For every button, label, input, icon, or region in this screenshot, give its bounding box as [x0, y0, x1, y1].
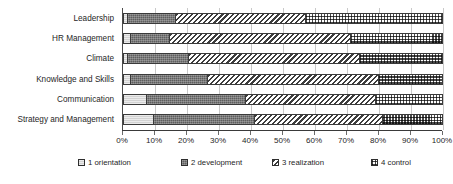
bar-segment-series-4[interactable] [359, 54, 442, 63]
x-axis-tick [314, 131, 315, 135]
bar-row [123, 114, 443, 125]
bars-container [123, 8, 443, 130]
chart-legend: 1 orientation2 development3 realization4… [0, 158, 453, 180]
bar-segment-series-2[interactable] [130, 75, 206, 84]
bar-segment-series-4[interactable] [350, 34, 442, 43]
legend-swatch-icon [272, 159, 279, 166]
stacked-bar[interactable] [123, 94, 443, 105]
bar-segment-series-3[interactable] [245, 95, 375, 104]
category-label: Climate [86, 54, 114, 63]
bar-segment-series-3[interactable] [175, 14, 305, 23]
bar-row [123, 53, 443, 64]
category-axis: LeadershipHR ManagementClimateKnowledge … [0, 8, 118, 130]
legend-label: 4 control [381, 158, 411, 167]
legend-item[interactable]: 4 control [371, 158, 411, 167]
legend-swatch-icon [78, 159, 85, 166]
bar-row [123, 74, 443, 85]
bar-segment-series-2[interactable] [153, 115, 255, 124]
legend-label: 3 realization [282, 158, 324, 167]
x-axis-tick-label: 30% [210, 136, 226, 145]
legend-item[interactable]: 3 realization [272, 158, 324, 167]
x-axis-tick-label: 40% [242, 136, 258, 145]
stacked-bar[interactable] [123, 114, 443, 125]
bar-row [123, 13, 443, 24]
bar-segment-series-1[interactable] [124, 115, 153, 124]
x-axis-tick [154, 131, 155, 135]
x-axis-tick-label: 70% [338, 136, 354, 145]
x-axis-tick [250, 131, 251, 135]
bar-segment-series-3[interactable] [188, 54, 360, 63]
x-axis-tick [410, 131, 411, 135]
x-axis-tick [218, 131, 219, 135]
bar-segment-series-2[interactable] [127, 54, 187, 63]
bar-segment-series-4[interactable] [375, 95, 442, 104]
stacked-bar-chart: LeadershipHR ManagementClimateKnowledge … [0, 0, 453, 184]
category-label: Knowledge and Skills [36, 75, 114, 84]
x-axis-tick-label: 20% [178, 136, 194, 145]
bar-segment-series-4[interactable] [378, 75, 442, 84]
legend-label: 2 development [191, 158, 242, 167]
stacked-bar[interactable] [123, 53, 443, 64]
x-axis-tick [378, 131, 379, 135]
category-label: Strategy and Management [18, 115, 115, 124]
stacked-bar[interactable] [123, 13, 443, 24]
bar-row [123, 33, 443, 44]
bar-segment-series-2[interactable] [146, 95, 245, 104]
bar-segment-series-3[interactable] [207, 75, 379, 84]
bar-segment-series-4[interactable] [382, 115, 442, 124]
x-axis-tick-label: 100% [432, 136, 452, 145]
x-axis-tick [442, 131, 443, 135]
bar-segment-series-4[interactable] [305, 14, 442, 23]
legend-swatch-icon [181, 159, 188, 166]
stacked-bar[interactable] [123, 74, 443, 85]
value-axis: 0%10%20%30%40%50%60%70%80%90%100% [122, 130, 442, 151]
bar-segment-series-2[interactable] [127, 14, 175, 23]
gridline [443, 8, 444, 130]
bar-row [123, 94, 443, 105]
plot-wrapper: LeadershipHR ManagementClimateKnowledge … [0, 0, 453, 150]
x-axis-tick-label: 80% [370, 136, 386, 145]
x-axis-tick [282, 131, 283, 135]
bar-segment-series-3[interactable] [254, 115, 381, 124]
legend-item[interactable]: 2 development [181, 158, 242, 167]
x-axis-tick [122, 131, 123, 135]
x-axis-tick-label: 50% [274, 136, 290, 145]
bar-segment-series-3[interactable] [169, 34, 350, 43]
bar-segment-series-1[interactable] [124, 95, 146, 104]
x-axis-tick-label: 0% [116, 136, 128, 145]
legend-swatch-icon [371, 159, 378, 166]
x-axis-tick [186, 131, 187, 135]
legend-label: 1 orientation [88, 158, 131, 167]
category-label: Communication [57, 95, 114, 104]
bar-segment-series-2[interactable] [130, 34, 168, 43]
x-axis-tick-label: 90% [402, 136, 418, 145]
plot-area [122, 8, 443, 130]
category-label: HR Management [52, 34, 114, 43]
x-axis-tick-label: 60% [306, 136, 322, 145]
x-axis-tick [346, 131, 347, 135]
stacked-bar[interactable] [123, 33, 443, 44]
x-axis-tick-label: 10% [146, 136, 162, 145]
legend-item[interactable]: 1 orientation [78, 158, 131, 167]
category-label: Leadership [73, 14, 114, 23]
